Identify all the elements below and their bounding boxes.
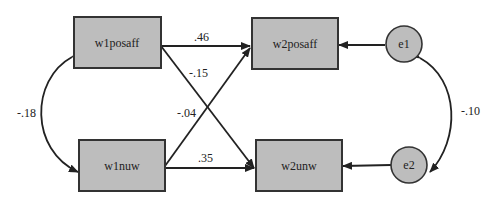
svg-text:w1nuw: w1nuw <box>104 159 140 173</box>
label-covariance-w1: -.18 <box>17 106 36 120</box>
node-w2posaff: w2posaff <box>252 18 338 69</box>
path-e2-w2unw <box>343 165 391 166</box>
label-covariance-e: -.10 <box>461 104 480 118</box>
covariance-w1posaff-w1nuw <box>41 57 78 172</box>
svg-text:e1: e1 <box>398 37 409 51</box>
node-w1posaff: w1posaff <box>74 17 161 68</box>
node-w2unw: w2unw <box>256 140 342 191</box>
label-w1nuw-w2posaff: -.04 <box>177 106 196 120</box>
label-w1nuw-w2unw: .35 <box>198 151 213 165</box>
label-w1posaff-w2posaff: .46 <box>194 30 209 44</box>
svg-text:w2unw: w2unw <box>281 159 317 173</box>
path-diagram: w1posaff w1nuw w2posaff w2unw e1 e2 .46 … <box>0 0 499 205</box>
svg-text:e2: e2 <box>403 158 414 172</box>
node-e2: e2 <box>391 147 427 183</box>
svg-text:w2posaff: w2posaff <box>273 37 317 51</box>
node-e1: e1 <box>386 26 422 62</box>
svg-text:w1posaff: w1posaff <box>95 36 139 50</box>
node-w1nuw: w1nuw <box>79 140 165 191</box>
label-w1posaff-w2unw: -.15 <box>189 66 208 80</box>
